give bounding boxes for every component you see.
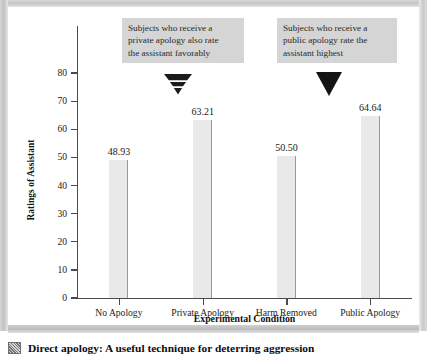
chart-plot-area: Subjects who receive a private apology a… [8, 7, 419, 325]
figure-caption-row: Direct apology: A useful technique for d… [8, 337, 419, 359]
annotation-line: public apology rate the [283, 34, 391, 46]
x-axis-tick [119, 299, 120, 305]
x-axis-category-label: Public Apology [322, 307, 418, 318]
annotation-line: assistant highest [283, 47, 391, 59]
y-axis-tick [71, 101, 77, 102]
bar [109, 160, 128, 298]
x-axis-tick [203, 299, 204, 305]
annotation-line: Subjects who receive a [283, 22, 391, 34]
y-axis-tick-label: 50 [41, 152, 67, 162]
bar [361, 116, 380, 298]
y-axis-tick-label: 70 [41, 96, 67, 106]
bar [193, 120, 212, 298]
frame-left-edge [0, 0, 8, 331]
y-axis-tick-label: 20 [41, 237, 67, 247]
y-axis-tick [71, 72, 77, 73]
bar-value-label: 50.50 [256, 142, 316, 153]
bar-value-label: 63.21 [173, 106, 233, 117]
frame-right-edge [419, 0, 427, 331]
solid-triangle-arrow-icon [314, 71, 344, 98]
y-axis-tick-label: 40 [41, 181, 67, 191]
y-axis-tick [71, 297, 77, 298]
annotation-callout-private-apology: Subjects who receive a private apology a… [122, 18, 244, 63]
y-axis-tick-label: 10 [41, 265, 67, 275]
y-axis-tick [71, 269, 77, 270]
bar-value-label: 48.93 [89, 146, 149, 157]
figure-caption-text: Direct apology: A useful technique for d… [28, 342, 314, 354]
annotation-line: private apology also rate [128, 34, 238, 46]
bar [277, 156, 296, 298]
y-axis-tick [71, 129, 77, 130]
x-axis-category-label: Harm Removed [238, 307, 334, 318]
y-axis-title: Ratings of Assistant [26, 120, 36, 240]
x-axis-category-label: No Apology [71, 307, 167, 318]
y-axis-tick-label: 80 [41, 68, 67, 78]
figure-panel: Subjects who receive a private apology a… [0, 0, 427, 359]
x-axis-tick [286, 299, 287, 305]
thumbnail-image-icon [8, 342, 21, 354]
annotation-callout-public-apology: Subjects who receive a public apology ra… [277, 18, 397, 63]
y-axis-tick-label: 0 [41, 293, 67, 303]
y-axis-line [77, 26, 78, 299]
y-axis-tick [71, 157, 77, 158]
x-axis-category-label: Private Apology [155, 307, 251, 318]
y-axis-tick [71, 213, 77, 214]
y-axis-tick-label: 60 [41, 124, 67, 134]
bar-value-label: 64.64 [340, 102, 400, 113]
x-axis-line [77, 298, 412, 299]
x-axis-tick [370, 299, 371, 305]
frame-top-edge [0, 0, 427, 7]
y-axis-tick [71, 185, 77, 186]
annotation-line: the assistant favorably [128, 47, 238, 59]
striped-triangle-arrow-icon [163, 73, 193, 97]
frame-bottom-divider [8, 325, 419, 333]
y-axis-tick [71, 241, 77, 242]
y-axis-tick-label: 30 [41, 209, 67, 219]
annotation-line: Subjects who receive a [128, 22, 238, 34]
